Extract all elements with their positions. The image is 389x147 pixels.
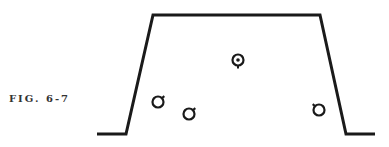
diagram-canvas (0, 0, 389, 147)
ring-symbol-icon (313, 104, 325, 115)
ring-symbol-icon (153, 96, 165, 107)
figure-caption: FIG. 6-7 (9, 93, 70, 104)
ring-symbol-icon (184, 108, 196, 119)
target-symbol-icon (233, 55, 244, 69)
symbols-group (153, 55, 325, 120)
trapezoid-outline (97, 15, 375, 134)
figure-6-7: FIG. 6-7 (0, 0, 389, 147)
